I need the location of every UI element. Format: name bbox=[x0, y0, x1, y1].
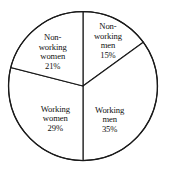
pie-wedge-group bbox=[8, 12, 157, 161]
pie-chart: Non- working men 15% Working men 35% Wor… bbox=[0, 0, 170, 171]
pie-chart-canvas bbox=[0, 0, 170, 171]
